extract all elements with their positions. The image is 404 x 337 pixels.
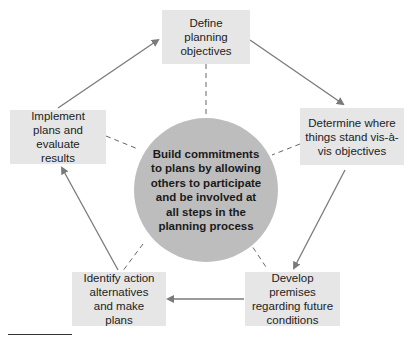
step-define-label: Define planning objectives [172, 16, 240, 58]
step-identify-box: Identify action alternatives and make pl… [72, 272, 166, 326]
footnote-rule [8, 334, 72, 335]
step-identify-label: Identify action alternatives and make pl… [80, 271, 158, 327]
step-develop-box: Develop premises regarding future condit… [245, 272, 340, 326]
step-implement-box: Implement plans and evaluate results [10, 110, 106, 164]
step-determine-box: Determine where things stand vis-à-vis o… [300, 108, 404, 165]
center-circle: Build commitments to plans by allowing o… [134, 118, 278, 262]
step-implement-label: Implement plans and evaluate results [18, 109, 98, 165]
center-label: Build commitments to plans by allowing o… [148, 147, 264, 234]
step-define-box: Define planning objectives [162, 10, 250, 64]
step-develop-label: Develop premises regarding future condit… [249, 271, 336, 327]
step-determine-label: Determine where things stand vis-à-vis o… [304, 116, 400, 158]
